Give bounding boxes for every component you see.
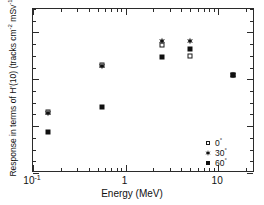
- legend-item-label: 0°: [215, 138, 222, 148]
- y-tick-minor-right: [250, 9, 253, 10]
- x-tick-minor: [181, 168, 182, 171]
- x-tick-minor-top: [111, 9, 112, 12]
- x-tick-minor-top: [214, 9, 215, 12]
- y-tick-major-right: [247, 173, 253, 174]
- x-tick-minor-top: [170, 9, 171, 12]
- y-tick-minor-right: [250, 56, 253, 57]
- x-tick-minor: [77, 168, 78, 171]
- y-tick-minor-right: [250, 114, 253, 115]
- x-tick-minor: [111, 168, 112, 171]
- x-tick-minor-top: [190, 9, 191, 12]
- y-axis-title: Response in terms of H'(10) (tracks cm-2…: [9, 0, 18, 182]
- star-marker-icon: [187, 37, 194, 44]
- x-tick-minor: [105, 168, 106, 171]
- filled-square-marker-icon: [99, 105, 104, 110]
- star-icon: [203, 150, 212, 156]
- y-tick-minor: [33, 91, 36, 92]
- open-square-marker-icon: [188, 53, 193, 58]
- filled-square-marker-icon: [160, 55, 165, 60]
- legend-item-label: 60°: [215, 158, 227, 168]
- y-tick-major: [33, 126, 39, 127]
- x-tick-minor: [121, 168, 122, 171]
- x-tick-minor-top: [181, 9, 182, 12]
- filled-square-icon: [203, 161, 212, 165]
- star-marker-icon: [44, 109, 51, 116]
- y-tick-minor-right: [250, 150, 253, 151]
- x-tick-minor: [117, 168, 118, 171]
- y-tick-major-right: [247, 79, 253, 80]
- x-tick-minor: [89, 168, 90, 171]
- x-tick-label: 10: [212, 176, 223, 186]
- x-tick-major-top: [126, 9, 127, 15]
- x-tick-minor: [61, 168, 62, 171]
- y-tick-minor: [33, 161, 36, 162]
- x-tick-major: [126, 165, 127, 171]
- y-tick-minor: [33, 44, 36, 45]
- y-tick-minor-right: [250, 21, 253, 22]
- y-tick-minor-right: [250, 44, 253, 45]
- x-axis-title: Energy (MeV): [0, 188, 264, 199]
- x-tick-minor-top: [153, 9, 154, 12]
- x-tick-minor: [204, 168, 205, 171]
- open-square-icon: [203, 141, 212, 145]
- x-tick-minor: [198, 168, 199, 171]
- star-marker-icon: [159, 37, 166, 44]
- figure-root: 0200400600 10-1110 Energy (MeV) Response…: [0, 0, 264, 205]
- x-tick-minor-top: [198, 9, 199, 12]
- y-tick-minor-right: [250, 103, 253, 104]
- x-tick-minor-top: [77, 9, 78, 12]
- x-tick-minor-top: [121, 9, 122, 12]
- x-tick-minor-top: [204, 9, 205, 12]
- y-tick-minor: [33, 103, 36, 104]
- x-tick-minor: [170, 168, 171, 171]
- y-tick-minor-right: [250, 161, 253, 162]
- x-tick-minor: [190, 168, 191, 171]
- x-tick-major: [33, 165, 34, 171]
- star-marker-icon: [98, 63, 105, 70]
- x-tick-minor-top: [98, 9, 99, 12]
- x-tick-label: 10-1: [23, 176, 40, 186]
- x-tick-minor: [209, 168, 210, 171]
- y-tick-major: [33, 32, 39, 33]
- legend: 0°30°60°: [203, 138, 227, 168]
- x-tick-minor: [246, 168, 247, 171]
- legend-item: 60°: [203, 158, 227, 168]
- x-tick-minor-top: [89, 9, 90, 12]
- x-tick-minor: [98, 168, 99, 171]
- y-tick-minor: [33, 138, 36, 139]
- filled-square-marker-icon: [45, 130, 50, 135]
- x-tick-label: 1: [122, 176, 128, 186]
- star-marker-icon: [230, 71, 237, 78]
- x-tick-minor-top: [61, 9, 62, 12]
- y-tick-minor-right: [250, 91, 253, 92]
- y-tick-major-right: [247, 126, 253, 127]
- y-tick-minor-right: [250, 68, 253, 69]
- x-tick-minor-top: [246, 9, 247, 12]
- x-tick-minor: [153, 168, 154, 171]
- y-tick-minor: [33, 150, 36, 151]
- x-tick-minor-top: [117, 9, 118, 12]
- x-tick-major-top: [33, 9, 34, 15]
- y-tick-minor: [33, 56, 36, 57]
- y-tick-major: [33, 79, 39, 80]
- x-tick-minor-top: [209, 9, 210, 12]
- x-tick-major-top: [218, 9, 219, 15]
- y-tick-minor: [33, 21, 36, 22]
- y-tick-major-right: [247, 32, 253, 33]
- filled-square-marker-icon: [188, 46, 193, 51]
- x-tick-minor-top: [105, 9, 106, 12]
- y-tick-minor: [33, 114, 36, 115]
- y-tick-minor: [33, 68, 36, 69]
- y-tick-minor-right: [250, 138, 253, 139]
- x-tick-minor: [214, 168, 215, 171]
